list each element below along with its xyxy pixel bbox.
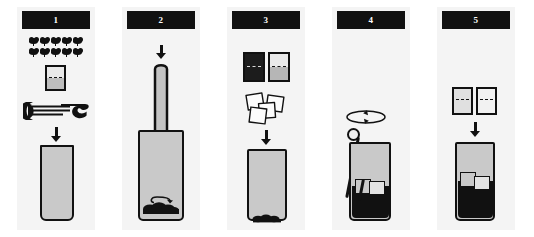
- mint-leaf-icon: [62, 38, 71, 46]
- ice-cube-icon: [369, 181, 385, 195]
- panel-3-number: 3: [264, 15, 269, 25]
- dark-measure-icon: [243, 52, 265, 82]
- measure-fill-line: [456, 99, 469, 100]
- panel-3-header: 3: [232, 11, 300, 29]
- panel-4-header: 4: [337, 11, 405, 29]
- empty-tall-glass-icon: [40, 145, 74, 221]
- panel-5-number: 5: [474, 15, 479, 25]
- recipe-infographic: 1: [0, 0, 534, 237]
- panel-1-header: 1: [22, 11, 90, 29]
- measure-fill-line: [49, 77, 62, 78]
- measure-fill: [270, 67, 288, 80]
- panel-2-stage: [122, 29, 200, 230]
- panel-4-stage: [332, 29, 410, 230]
- panel-5-stage: [437, 29, 515, 230]
- measure-fill-line: [247, 66, 261, 67]
- mint-leaf-icon: [62, 49, 71, 57]
- light-measure-icon: [452, 87, 473, 115]
- lime-squeezer-icon: [23, 100, 91, 122]
- mint-leaf-icon: [29, 38, 38, 46]
- panel-4-number: 4: [369, 15, 374, 25]
- mint-leaf-group-row-1: [29, 38, 83, 48]
- panel-5-header: 5: [442, 11, 510, 29]
- panel-1-number: 1: [54, 15, 59, 25]
- mint-leaf-icon: [51, 38, 60, 46]
- mint-leaf-icon: [40, 38, 49, 46]
- mint-leaf-icon: [73, 49, 82, 57]
- panel-3-stage: [227, 29, 305, 230]
- rotation-arrow-icon: [345, 109, 387, 125]
- ice-cubes-icon: [245, 91, 289, 126]
- mint-leaf-icon: [40, 49, 49, 57]
- panel-2-header: 2: [127, 11, 195, 29]
- light-measure-icon: [476, 87, 497, 115]
- panel-2-number: 2: [159, 15, 164, 25]
- sugar-measure-icon: [45, 65, 66, 91]
- measure-fill: [47, 78, 64, 89]
- mint-leaf-icon: [73, 38, 82, 46]
- light-measure-icon: [268, 52, 290, 82]
- ice-cube-icon: [474, 176, 490, 190]
- measure-fill-line: [272, 66, 286, 67]
- crushed-mint-icon: [142, 201, 180, 215]
- panel-1-stage: [17, 29, 95, 230]
- mint-leaf-icon: [29, 49, 38, 57]
- mint-leaf-group-row-2: [29, 49, 83, 59]
- crushed-mint-icon: [252, 209, 282, 218]
- measure-fill-line: [480, 99, 493, 100]
- mint-leaf-icon: [51, 49, 60, 57]
